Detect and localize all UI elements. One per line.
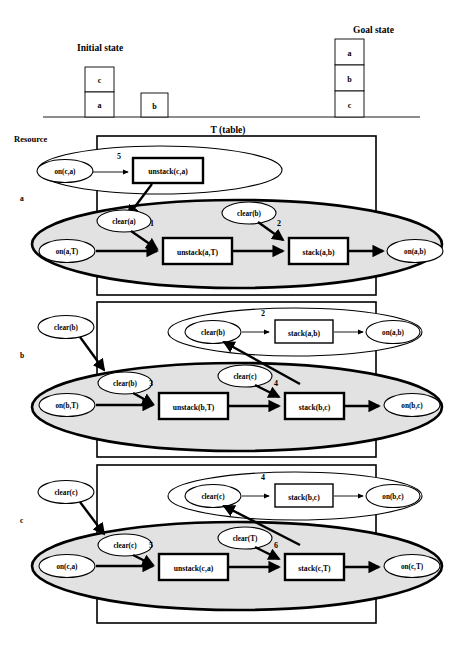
node-label: clear(b) xyxy=(237,210,262,218)
action-label: stack(c,T) xyxy=(298,564,331,573)
action-label: unstack(a,T) xyxy=(177,248,219,257)
node-label: on(c,T) xyxy=(401,563,424,571)
action-label: stack(b,c) xyxy=(288,493,320,502)
node-label: on(b,c) xyxy=(401,402,423,410)
action-number: 2 xyxy=(261,309,265,318)
block-label: b xyxy=(152,102,157,111)
node-label: clear(b) xyxy=(201,329,226,337)
action-number: 5 xyxy=(117,152,121,161)
action-number: 4 xyxy=(274,379,278,388)
action-number: 2 xyxy=(277,219,281,228)
node-label: clear(b) xyxy=(113,380,138,388)
action-number: 5 xyxy=(149,541,153,550)
action-label: unstack(c,a) xyxy=(174,564,214,573)
node-label: on(b,c) xyxy=(382,493,404,501)
node-label: clear(c) xyxy=(113,542,137,550)
resource-label: Resource xyxy=(14,134,48,144)
node-label: on(a,b) xyxy=(382,329,404,337)
action-label: stack(b,c) xyxy=(299,403,331,412)
node-label: clear(T) xyxy=(233,535,258,543)
node-label: clear(b) xyxy=(54,324,79,332)
block-label: b xyxy=(347,75,352,84)
action-label: unstack(b,T) xyxy=(173,403,215,412)
action-label: stack(a,b) xyxy=(303,248,335,257)
link-external-clear-c xyxy=(80,502,104,534)
row-a-group: on(c,a) unstack(c,a) 5 clear(a) clear(b)… xyxy=(32,146,443,288)
action-label: stack(a,b) xyxy=(288,329,320,338)
initial-stack-1: c a xyxy=(85,67,114,117)
node-label: on(c,a) xyxy=(57,563,79,571)
node-label: on(b,T) xyxy=(56,402,80,410)
table-label: T (table) xyxy=(211,125,246,136)
node-label: clear(c) xyxy=(54,489,78,497)
link-external-clear-b xyxy=(80,337,104,370)
node-label: on(a,b) xyxy=(404,248,426,256)
block-label: a xyxy=(98,101,102,110)
row-b-group: clear(b) stack(a,b) 2 on(a,b) clear(b) c… xyxy=(32,308,442,451)
states-panel: Initial state Goal state c a b a b c xyxy=(43,25,420,117)
block-label: c xyxy=(98,76,102,85)
initial-stack-2: b xyxy=(141,93,168,117)
goal-state-label: Goal state xyxy=(353,25,394,35)
plan-dependency-diagram: Initial state Goal state c a b a b c Res… xyxy=(0,0,460,651)
row-label-c: c xyxy=(20,516,24,525)
goal-stack: a b c xyxy=(335,39,364,117)
node-label: on(a,T) xyxy=(56,248,79,256)
action-number: 4 xyxy=(261,473,265,482)
initial-state-label: Initial state xyxy=(77,43,123,53)
row-label-b: b xyxy=(20,351,24,360)
action-label: unstack(c,a) xyxy=(148,167,188,176)
figure-canvas: Initial state Goal state c a b a b c Res… xyxy=(0,0,460,651)
action-number: 6 xyxy=(274,541,278,550)
block-label: c xyxy=(348,101,352,110)
block-label: a xyxy=(348,49,352,58)
node-label: clear(c) xyxy=(201,493,225,501)
node-label: clear(c) xyxy=(233,373,257,381)
action-number: 1 xyxy=(150,219,154,228)
row-c-group: clear(c) stack(b,c) 4 on(b,c) clear(c) c… xyxy=(32,472,442,610)
node-label: clear(a) xyxy=(112,218,136,226)
node-label: on(c,a) xyxy=(55,168,77,176)
action-number: 3 xyxy=(149,379,153,388)
row-label-a: a xyxy=(20,194,24,203)
